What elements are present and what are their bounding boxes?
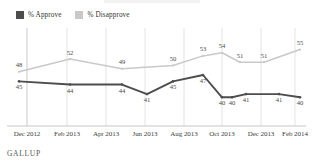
x-axis-tick-label: Dec 2013 xyxy=(248,130,275,138)
data-point-marker xyxy=(146,93,149,96)
data-label: 41 xyxy=(276,96,283,103)
series-line-disapprove xyxy=(18,48,301,72)
x-axis-tick-label: Jun 2013 xyxy=(132,130,157,138)
data-label: 41 xyxy=(243,96,250,103)
x-axis-ticks: Dec 2012Feb 2013Apr 2013Jun 2013Aug 2013… xyxy=(0,130,313,142)
legend-item-approve: % Approve xyxy=(16,11,61,19)
data-label: 52 xyxy=(67,49,74,56)
data-point-marker xyxy=(172,64,174,66)
data-label: 51 xyxy=(261,52,268,59)
data-label: 47 xyxy=(200,77,207,84)
data-point-marker xyxy=(18,80,21,83)
data-point-marker xyxy=(221,52,223,54)
legend-label-disapprove: % Disapprove xyxy=(87,11,129,19)
legend-swatch-disapprove-icon xyxy=(75,11,83,19)
x-axis-tick-label: Aug 2013 xyxy=(170,130,197,138)
series-line-approve xyxy=(18,74,302,99)
cropped-title-sliver xyxy=(104,0,200,3)
data-point-marker xyxy=(172,80,175,83)
chart-legend: % Approve % Disapprove xyxy=(16,9,130,21)
data-point-marker xyxy=(299,48,301,50)
x-axis-tick-label: Feb 2013 xyxy=(54,130,80,138)
series-path-disapprove xyxy=(19,50,300,72)
data-point-marker xyxy=(69,58,71,60)
data-label: 54 xyxy=(219,42,226,49)
legend-label-approve: % Approve xyxy=(28,11,61,19)
data-label: 48 xyxy=(16,61,23,68)
data-label: 55 xyxy=(297,39,304,46)
data-label: 49 xyxy=(119,58,126,65)
data-point-marker xyxy=(69,83,72,86)
data-label: 53 xyxy=(200,45,207,52)
legend-swatch-approve-icon xyxy=(16,11,24,19)
data-point-marker xyxy=(278,93,281,96)
data-point-marker xyxy=(18,71,20,73)
data-point-marker xyxy=(121,68,123,70)
legend-item-disapprove: % Disapprove xyxy=(75,11,129,19)
data-point-marker xyxy=(221,96,224,99)
x-axis-tick-label: Feb 2014 xyxy=(282,130,308,138)
data-point-marker xyxy=(263,61,265,63)
data-label: 44 xyxy=(119,87,126,94)
gridlines xyxy=(27,28,295,126)
data-label: 45 xyxy=(16,83,23,90)
data-label: 41 xyxy=(144,96,151,103)
x-axis-tick-label: Oct 2013 xyxy=(209,130,234,138)
plot-area: 485249505354515155 454444414547404041414… xyxy=(0,28,313,128)
data-point-marker xyxy=(202,55,204,57)
data-label: 40 xyxy=(297,99,304,106)
data-point-marker xyxy=(121,83,124,86)
data-label: 40 xyxy=(219,99,226,106)
data-point-marker xyxy=(245,93,248,96)
data-label: 51 xyxy=(237,52,244,59)
data-point-marker xyxy=(231,96,234,99)
data-label: 50 xyxy=(170,55,177,62)
source-attribution: GALLUP xyxy=(7,149,41,158)
data-point-marker xyxy=(202,74,205,77)
x-axis-tick-label: Apr 2013 xyxy=(93,130,119,138)
x-axis-tick-label: Dec 2012 xyxy=(14,130,41,138)
data-label: 44 xyxy=(67,87,74,94)
series-path-approve xyxy=(19,75,300,97)
gallup-line-chart: % Approve % Disapprove 48524950535451515… xyxy=(0,0,313,164)
data-label: 40 xyxy=(229,99,236,106)
data-label: 45 xyxy=(170,83,177,90)
data-point-marker xyxy=(239,61,241,63)
data-point-marker xyxy=(299,96,302,99)
